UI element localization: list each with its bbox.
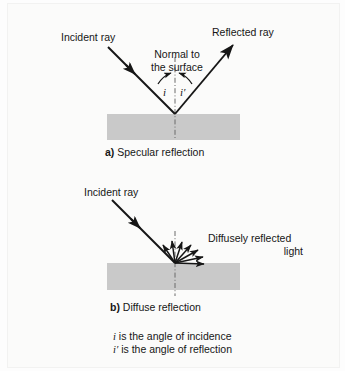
- caption-panel-b: b) Diffuse reflection: [110, 301, 201, 313]
- incident-ray-diffuse: [112, 200, 175, 263]
- diffuse-label-line2: light: [208, 245, 303, 258]
- reflected-ray-label-specular: Reflected ray: [212, 26, 274, 39]
- legend-line-reflection: i′ is the angle of reflection: [113, 343, 232, 355]
- incident-ray-label-specular: Incident ray: [61, 31, 115, 44]
- normal-label-line1: Normal to: [131, 48, 223, 61]
- legend-line-incidence: i is the angle of incidence: [113, 330, 232, 342]
- angle-label-incidence: i: [163, 86, 166, 98]
- angle-arc-reflection: [179, 73, 192, 84]
- caption-text-b: Diffuse reflection: [123, 301, 201, 313]
- normal-label-line2: the surface: [131, 61, 223, 74]
- reflection-diagram-figure: Incident ray Reflected ray Normal to the…: [0, 0, 345, 371]
- diffuse-ray: [175, 263, 204, 264]
- incident-ray-label-diffuse: Incident ray: [84, 186, 138, 199]
- incident-ray-direction-arrow-diffuse: [131, 219, 140, 228]
- caption-text-a: Specular reflection: [117, 146, 204, 158]
- caption-marker-b: b): [110, 301, 120, 313]
- caption-marker-a: a): [105, 146, 114, 158]
- angle-arc-incidence: [158, 73, 171, 84]
- diffuse-label-line1: Diffusely reflected: [208, 232, 291, 245]
- caption-panel-a: a) Specular reflection: [105, 146, 204, 158]
- angle-label-reflection: i′: [180, 86, 185, 98]
- surface-block-diffuse: [107, 263, 240, 290]
- legend-text-reflection: is the angle of reflection: [118, 343, 232, 355]
- diffuse-ray-fan: [163, 241, 204, 264]
- legend-text-incidence: is the angle of incidence: [116, 330, 232, 342]
- surface-block-specular: [107, 114, 240, 140]
